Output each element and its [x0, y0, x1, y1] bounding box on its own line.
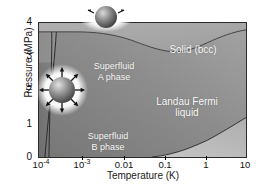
x-tick-0.01: 0.01	[115, 160, 134, 170]
x-tick-1: 1	[203, 160, 208, 170]
y-tick-3: 3	[14, 51, 32, 61]
cooper-pair-a-phase-illustration	[78, 0, 134, 37]
y-tick-1: 1	[14, 119, 32, 129]
x-tickmark-1e-3	[82, 156, 83, 160]
quasiparticle-sphere	[49, 77, 75, 103]
x-tick-1e-3: 10-3	[74, 160, 91, 170]
region-label-superfluid-a: Superfluid A phase	[86, 61, 142, 82]
x-tick-10: 10	[240, 160, 251, 170]
y-axis-ticks: 4 3 2 1 0	[12, 0, 32, 186]
region-label-gas: Gas	[244, 156, 247, 158]
cooper-pair-b-phase-illustration	[35, 63, 89, 117]
quasiparticle-sphere	[95, 6, 117, 28]
x-axis-label: Temperature (K)	[38, 170, 248, 181]
x-tickmark-0.1	[165, 156, 166, 160]
x-tickmark-1	[206, 156, 207, 160]
region-label-landau-fermi-liquid: Landau Fermi liquid	[154, 97, 220, 118]
x-tick-0.1: 0.1	[158, 160, 171, 170]
phase-diagram-figure: Pressure (MPa) 4 3 2 1 0	[0, 0, 260, 186]
region-label-solid: Solid (bcc)	[155, 45, 231, 56]
x-tick-1e-4: 10-4	[33, 160, 50, 170]
region-label-superfluid-b: Superfluid B phase	[82, 131, 134, 152]
y-tick-2: 2	[14, 85, 32, 95]
x-tickmark-0.01	[124, 156, 125, 160]
y-tick-4: 4	[14, 17, 32, 27]
